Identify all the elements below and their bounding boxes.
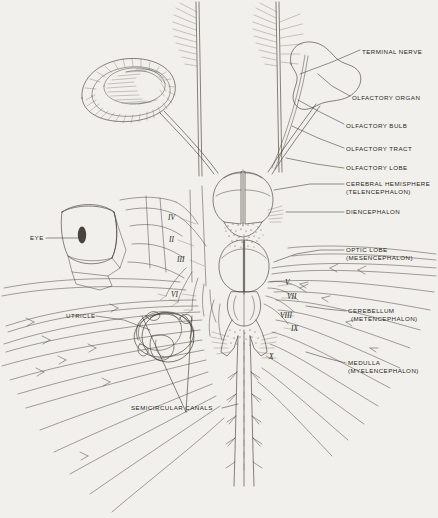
label-utricle-line1: UTRICLE bbox=[66, 312, 96, 320]
label-diencephalon-line1: DIENCEPHALON bbox=[346, 208, 400, 216]
dorsal-nerve-trunks bbox=[173, 2, 303, 176]
nerve-label-vi: VI bbox=[171, 290, 178, 299]
label-olfactory-bulb-line1: OLFACTORY BULB bbox=[346, 122, 407, 130]
nerve-branch-bundles bbox=[158, 268, 222, 340]
nerve-label-ix: IX bbox=[291, 324, 298, 333]
label-olfactory-organ-line1: OLFACTORY ORGAN bbox=[352, 94, 420, 102]
label-medulla: MEDULLA (MYELENCEPHALON) bbox=[348, 359, 419, 376]
label-eye: EYE bbox=[30, 234, 44, 242]
label-olfactory-lobe-line1: OLFACTORY LOBE bbox=[346, 164, 408, 172]
orbital-structures bbox=[120, 186, 206, 286]
label-terminal-nerve: TERMINAL NERVE bbox=[362, 48, 422, 56]
nerve-label-viii: VIII bbox=[280, 311, 292, 320]
olfactory-organ-right bbox=[290, 42, 360, 109]
label-olfactory-bulb: OLFACTORY BULB bbox=[346, 122, 407, 130]
nerve-label-iv: IV bbox=[168, 213, 175, 222]
figure-canvas: TERMINAL NERVE OLFACTORY ORGAN OLFACTORY… bbox=[0, 0, 438, 518]
eye-left bbox=[61, 205, 126, 291]
label-terminal-nerve-line1: TERMINAL NERVE bbox=[362, 48, 422, 56]
nerve-label-x: X bbox=[269, 352, 274, 361]
label-utricle: UTRICLE bbox=[66, 312, 96, 320]
label-cerebellum: CEREBELLUM (METENCEPHALON) bbox=[348, 307, 418, 324]
peripheral-nerve-fan-left bbox=[2, 279, 224, 512]
label-cerebral-hemisphere: CEREBRAL HEMISPHERE (TELENCEPHALON) bbox=[346, 180, 430, 197]
label-optic-lobe-line2: (MESENCEPHALON) bbox=[346, 254, 413, 262]
label-cerebellum-line2: (METENCEPHALON) bbox=[348, 315, 418, 323]
label-diencephalon: DIENCEPHALON bbox=[346, 208, 400, 216]
semicircular-canals bbox=[131, 306, 198, 412]
label-cerebral-hemisphere-line2: (TELENCEPHALON) bbox=[346, 188, 430, 196]
telencephalon bbox=[213, 170, 273, 226]
label-cerebellum-line1: CEREBELLUM bbox=[348, 307, 418, 315]
label-cerebral-hemisphere-line1: CEREBRAL HEMISPHERE bbox=[346, 180, 430, 188]
label-optic-lobe-line1: OPTIC LOBE bbox=[346, 246, 413, 254]
mesencephalon-optic-lobes bbox=[219, 238, 269, 294]
nerve-label-vii: VII bbox=[287, 292, 296, 301]
label-olfactory-organ: OLFACTORY ORGAN bbox=[352, 94, 420, 102]
label-olfactory-lobe: OLFACTORY LOBE bbox=[346, 164, 408, 172]
label-medulla-line2: (MYELENCEPHALON) bbox=[348, 367, 419, 375]
label-medulla-line1: MEDULLA bbox=[348, 359, 419, 367]
label-semicircular-canals-line1: SEMICIRCULAR CANALS bbox=[131, 404, 213, 412]
olfactory-organ-left bbox=[82, 58, 175, 123]
label-eye-line1: EYE bbox=[30, 234, 44, 242]
label-olfactory-tract: OLFACTORY TRACT bbox=[346, 145, 412, 153]
metencephalon-cerebellum bbox=[227, 292, 260, 326]
label-optic-lobe: OPTIC LOBE (MESENCEPHALON) bbox=[346, 246, 413, 263]
nerve-label-v: V bbox=[285, 278, 290, 287]
label-olfactory-tract-line1: OLFACTORY TRACT bbox=[346, 145, 412, 153]
label-semicircular-canals: SEMICIRCULAR CANALS bbox=[131, 404, 213, 412]
myelencephalon-medulla bbox=[211, 320, 277, 486]
nerve-label-iii: III bbox=[177, 255, 184, 264]
nerve-label-ii: II bbox=[169, 235, 174, 244]
